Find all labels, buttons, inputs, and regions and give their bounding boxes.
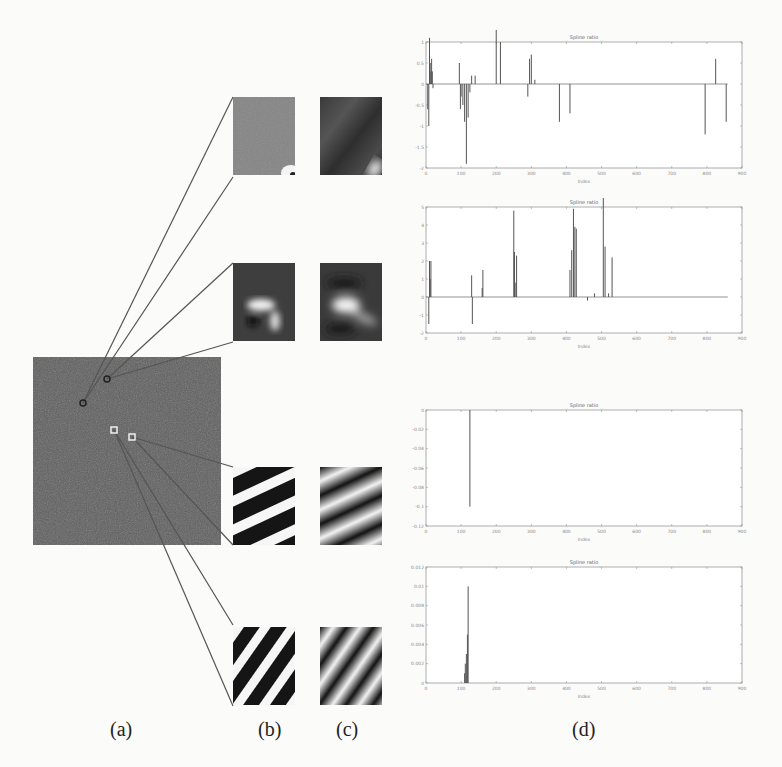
svg-text:900: 900 [738, 336, 747, 341]
svg-text:300: 300 [527, 171, 536, 176]
svg-text:600: 600 [632, 686, 641, 691]
svg-text:0.006: 0.006 [411, 623, 424, 628]
svg-text:0: 0 [425, 686, 428, 691]
svg-text:0.008: 0.008 [411, 603, 424, 608]
svg-text:700: 700 [667, 171, 676, 176]
svg-text:100: 100 [457, 686, 466, 691]
svg-text:0.004: 0.004 [411, 642, 424, 647]
svg-text:500: 500 [597, 686, 606, 691]
svg-text:1: 1 [421, 40, 424, 45]
patch-c-3 [320, 467, 382, 545]
svg-text:800: 800 [703, 686, 712, 691]
svg-text:-0.04: -0.04 [412, 446, 424, 451]
svg-text:Index: Index [578, 537, 591, 542]
svg-text:0: 0 [421, 82, 424, 87]
svg-text:300: 300 [527, 529, 536, 534]
svg-text:Spline ratio: Spline ratio [570, 402, 599, 409]
svg-text:200: 200 [492, 336, 501, 341]
caption-a: (a) [110, 718, 132, 741]
svg-text:0.012: 0.012 [411, 565, 424, 570]
svg-text:700: 700 [667, 529, 676, 534]
svg-text:Spline ratio: Spline ratio [570, 34, 599, 41]
svg-text:500: 500 [597, 336, 606, 341]
svg-text:Index: Index [578, 694, 591, 699]
chart-4: Spline ratio0100200300400500600700800900… [410, 555, 750, 705]
svg-text:2: 2 [421, 259, 424, 264]
svg-text:100: 100 [457, 529, 466, 534]
svg-text:-2: -2 [420, 331, 425, 336]
svg-text:0: 0 [425, 336, 428, 341]
svg-text:1: 1 [421, 277, 424, 282]
svg-text:900: 900 [738, 171, 747, 176]
svg-text:0: 0 [425, 171, 428, 176]
svg-text:-0.1: -0.1 [415, 504, 424, 509]
svg-text:4: 4 [421, 223, 424, 228]
svg-text:-0.06: -0.06 [412, 466, 424, 471]
svg-text:-1: -1 [420, 124, 425, 129]
svg-text:300: 300 [527, 686, 536, 691]
svg-text:900: 900 [738, 686, 747, 691]
caption-c: (c) [336, 718, 358, 741]
svg-text:800: 800 [703, 529, 712, 534]
svg-text:500: 500 [597, 171, 606, 176]
svg-text:100: 100 [457, 171, 466, 176]
svg-text:0.01: 0.01 [414, 584, 424, 589]
svg-text:400: 400 [562, 686, 571, 691]
svg-text:500: 500 [597, 529, 606, 534]
svg-text:0: 0 [421, 295, 424, 300]
svg-text:200: 200 [492, 529, 501, 534]
svg-text:600: 600 [632, 171, 641, 176]
svg-text:0: 0 [425, 529, 428, 534]
chart-1: Spline ratio0100200300400500600700800900… [410, 30, 750, 190]
caption-d: (d) [572, 718, 595, 741]
caption-b: (b) [258, 718, 281, 741]
svg-text:0: 0 [421, 408, 424, 413]
svg-text:900: 900 [738, 529, 747, 534]
svg-text:300: 300 [527, 336, 536, 341]
svg-text:200: 200 [492, 686, 501, 691]
svg-text:-0.5: -0.5 [415, 103, 424, 108]
svg-text:700: 700 [667, 336, 676, 341]
patch-b-4 [233, 627, 295, 705]
svg-text:-2: -2 [420, 166, 425, 171]
chart-3: Spline ratio0100200300400500600700800900… [410, 398, 750, 548]
patch-c-1 [320, 97, 382, 175]
svg-text:5: 5 [421, 205, 424, 210]
svg-text:600: 600 [632, 529, 641, 534]
svg-text:-0.08: -0.08 [412, 485, 424, 490]
svg-text:0.002: 0.002 [411, 661, 424, 666]
svg-text:-1.5: -1.5 [415, 145, 424, 150]
svg-text:800: 800 [703, 171, 712, 176]
svg-text:200: 200 [492, 171, 501, 176]
svg-text:700: 700 [667, 686, 676, 691]
svg-text:800: 800 [703, 336, 712, 341]
svg-text:-0.12: -0.12 [412, 524, 424, 529]
svg-text:Spline ratio: Spline ratio [570, 199, 599, 206]
svg-text:400: 400 [562, 171, 571, 176]
patch-c-4 [320, 627, 382, 705]
svg-text:Spline ratio: Spline ratio [570, 559, 599, 566]
svg-text:3: 3 [421, 241, 424, 246]
svg-text:0.5: 0.5 [417, 61, 424, 66]
svg-text:Index: Index [578, 179, 591, 184]
svg-text:-1: -1 [420, 313, 425, 318]
patch-b-3 [233, 467, 295, 545]
svg-text:100: 100 [457, 336, 466, 341]
svg-text:0: 0 [421, 681, 424, 686]
svg-text:-0.02: -0.02 [412, 427, 424, 432]
svg-text:600: 600 [632, 336, 641, 341]
svg-text:Index: Index [578, 344, 591, 349]
chart-2: Spline ratio0100200300400500600700800900… [410, 195, 750, 355]
svg-text:400: 400 [562, 336, 571, 341]
svg-text:400: 400 [562, 529, 571, 534]
patch-b-1 [233, 97, 295, 175]
patch-c-2 [320, 263, 382, 341]
patch-b-2 [233, 263, 295, 341]
